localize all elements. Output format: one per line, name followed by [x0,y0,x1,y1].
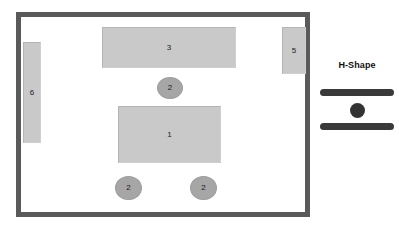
furniture-ellipse-bottom-left[interactable]: 2 [115,176,142,200]
legend-bar-bottom-icon [320,123,394,130]
legend-bar-top-icon [320,89,394,96]
furniture-ellipse-top-label: 2 [168,84,172,92]
furniture-ellipse-bottom-right[interactable]: 2 [190,176,217,200]
room-outline: 3 1 5 6 2 2 2 [16,12,310,217]
floor-plan-canvas: 3 1 5 6 2 2 2 H-Shape [0,0,399,233]
furniture-rect-6-label: 6 [30,89,34,97]
legend-dot-icon [350,103,365,118]
legend: H-Shape [318,60,396,142]
furniture-rect-1-label: 1 [167,131,171,139]
furniture-rect-5-label: 5 [292,47,296,55]
furniture-rect-3-label: 3 [167,44,171,52]
furniture-rect-6[interactable]: 6 [23,42,41,143]
legend-title: H-Shape [318,60,396,70]
furniture-rect-3[interactable]: 3 [102,27,236,68]
furniture-rect-1[interactable]: 1 [118,106,221,163]
furniture-ellipse-top[interactable]: 2 [157,77,183,99]
furniture-ellipse-bottom-right-label: 2 [201,184,205,192]
furniture-rect-5[interactable]: 5 [282,27,306,74]
furniture-ellipse-bottom-left-label: 2 [126,184,130,192]
